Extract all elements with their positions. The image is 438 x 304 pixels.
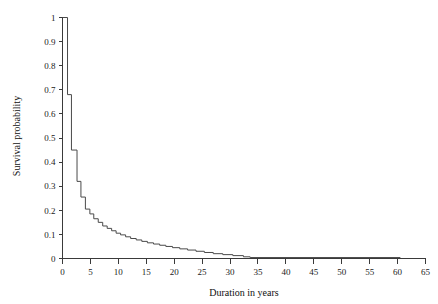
x-tick-label: 35 (253, 267, 263, 277)
x-tick-label: 0 (60, 267, 65, 277)
x-tick-label: 5 (88, 267, 93, 277)
y-tick-label: 0.4 (44, 157, 56, 167)
x-tick-label: 25 (198, 267, 208, 277)
y-tick-label: 0.8 (44, 61, 56, 71)
y-axis: 00.10.20.30.40.50.60.70.80.91 (44, 13, 62, 264)
survival-plot: 00.10.20.30.40.50.60.70.80.91 0510152025… (0, 0, 438, 304)
x-tick-label: 55 (365, 267, 375, 277)
x-tick-label: 40 (281, 267, 291, 277)
y-tick-label: 0 (51, 254, 56, 264)
x-tick-label: 20 (170, 267, 180, 277)
y-tick-label: 0.1 (44, 230, 55, 240)
y-tick-label: 0.7 (44, 85, 56, 95)
x-tick-label: 45 (309, 267, 319, 277)
x-axis-title: Duration in years (209, 287, 279, 298)
y-tick-label: 0.3 (44, 181, 56, 191)
y-tick-label: 0.6 (44, 109, 56, 119)
y-tick-label: 0.5 (44, 133, 56, 143)
x-tick-label: 30 (226, 267, 236, 277)
y-axis-title: Survival probability (11, 96, 22, 176)
survival-curve-group (63, 18, 401, 258)
x-tick-label: 65 (421, 267, 431, 277)
x-tick-label: 60 (393, 267, 403, 277)
survival-curve-line (63, 18, 401, 258)
x-axis: 05101520253035404550556065 (60, 259, 430, 277)
x-tick-label: 15 (142, 267, 152, 277)
y-tick-label: 0.2 (44, 206, 55, 216)
y-tick-label: 0.9 (44, 37, 56, 47)
x-tick-label: 10 (114, 267, 124, 277)
y-tick-label: 1 (51, 13, 56, 23)
survival-chart-svg: 00.10.20.30.40.50.60.70.80.91 0510152025… (0, 0, 438, 304)
x-tick-label: 50 (337, 267, 347, 277)
